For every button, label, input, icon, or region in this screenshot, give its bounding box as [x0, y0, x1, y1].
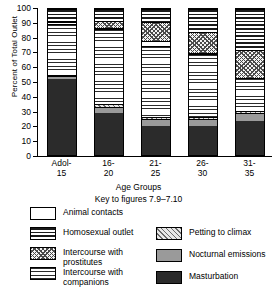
- y-tick-label: 10: [9, 137, 31, 145]
- bar-26-30[interactable]: [188, 8, 218, 156]
- y-tick-mark: [33, 126, 37, 127]
- x-tick-label-line1: 26-: [179, 158, 227, 168]
- bar-segment-prost[interactable]: [236, 50, 264, 78]
- y-tick-label: 60: [9, 63, 31, 71]
- x-tick-label-line2: 35: [226, 168, 274, 178]
- bar-segment-prost[interactable]: [189, 32, 217, 52]
- bar-segment-mast[interactable]: [48, 79, 76, 155]
- legend-swatch-icon: [30, 207, 56, 220]
- y-tick-label: 40: [9, 93, 31, 101]
- x-tick-label-line2: 25: [132, 168, 180, 178]
- bar-segment-homo[interactable]: [189, 9, 217, 32]
- bar-segment-mast[interactable]: [95, 113, 123, 155]
- bar-31-35[interactable]: [235, 8, 265, 156]
- x-tick-label-line1: 16-: [85, 158, 133, 168]
- y-tick-label: 80: [9, 34, 31, 42]
- x-tick-label: 16-20: [85, 158, 133, 178]
- legend-item[interactable]: Petting to climax: [156, 227, 251, 240]
- y-tick-label: 0: [9, 152, 31, 160]
- legend-swatch-icon: [156, 227, 182, 240]
- x-tick-label-line1: 21-: [132, 158, 180, 168]
- legend-swatch-icon: [30, 227, 56, 240]
- key-caption: Key to figures 7.9–7.10: [0, 194, 277, 204]
- y-tick-mark: [33, 156, 37, 157]
- x-tick-label-line2: 30: [179, 168, 227, 178]
- y-tick-label: 90: [9, 19, 31, 27]
- bar-segment-comp[interactable]: [142, 46, 170, 118]
- x-tick-label: 26-30: [179, 158, 227, 178]
- y-tick-mark: [33, 112, 37, 113]
- y-tick-label: 70: [9, 48, 31, 56]
- y-tick-mark: [33, 38, 37, 39]
- bar-segment-noct[interactable]: [142, 119, 170, 126]
- bar-segment-mast[interactable]: [236, 121, 264, 155]
- legend-swatch-icon: [156, 249, 182, 262]
- legend-label: Animal contacts: [63, 207, 123, 218]
- bar-segment-homo[interactable]: [142, 9, 170, 22]
- legend-label: Nocturnal emissions: [189, 249, 266, 260]
- bar-21-25[interactable]: [141, 8, 171, 156]
- legend-label: Homosexual outlet: [63, 227, 133, 238]
- plot-area: Percent of Total Outlet 1009080706050403…: [0, 0, 277, 168]
- x-axis-caption: Age Groups: [0, 182, 277, 192]
- x-axis-line: [37, 156, 272, 157]
- legend-label: Intercourse with companions: [63, 267, 123, 287]
- legend-swatch-icon: [156, 271, 182, 284]
- y-tick-label: 50: [9, 78, 31, 86]
- x-tick-label: 21-25: [132, 158, 180, 178]
- legend-swatch-icon: [30, 267, 56, 280]
- bar-segment-prost[interactable]: [95, 21, 123, 28]
- x-tick-label-line1: Adol-: [38, 158, 86, 168]
- bar-segment-mast[interactable]: [189, 126, 217, 155]
- bar-16-20[interactable]: [94, 8, 124, 156]
- y-tick-mark: [33, 97, 37, 98]
- legend-label: Masturbation: [189, 271, 238, 282]
- bar-segment-noct[interactable]: [189, 119, 217, 126]
- y-tick-mark: [33, 23, 37, 24]
- bar-group: [38, 8, 273, 156]
- y-tick-mark: [33, 67, 37, 68]
- legend-item[interactable]: Animal contacts: [30, 207, 123, 220]
- legend-item[interactable]: Masturbation: [156, 271, 238, 284]
- bar-segment-homo[interactable]: [95, 9, 123, 21]
- x-tick-label: 31-35: [226, 158, 274, 178]
- x-tick-label-line2: 15: [38, 168, 86, 178]
- chart-figure: Percent of Total Outlet 1009080706050403…: [0, 0, 277, 293]
- y-tick-mark: [33, 52, 37, 53]
- bar-segment-comp[interactable]: [236, 78, 264, 112]
- y-tick-label: 30: [9, 108, 31, 116]
- bar-segment-mast[interactable]: [142, 126, 170, 155]
- x-tick-label-line1: 31-: [226, 158, 274, 168]
- y-tick-label: 100: [9, 4, 31, 12]
- legend: Animal contactsHomosexual outletIntercou…: [0, 207, 277, 293]
- bar-segment-homo[interactable]: [236, 9, 264, 50]
- legend-item[interactable]: Nocturnal emissions: [156, 249, 266, 262]
- legend-swatch-icon: [30, 247, 56, 260]
- legend-item[interactable]: Intercourse with prostitutes: [30, 247, 123, 267]
- bar-segment-homo[interactable]: [48, 9, 76, 21]
- bar-Adol-15[interactable]: [47, 8, 77, 156]
- x-tick-label: Adol-15: [38, 158, 86, 178]
- y-tick-mark: [33, 8, 37, 9]
- x-tick-label-line2: 20: [85, 168, 133, 178]
- y-tick-label: 20: [9, 122, 31, 130]
- legend-label: Petting to climax: [189, 227, 251, 238]
- y-tick-mark: [33, 141, 37, 142]
- bar-segment-comp[interactable]: [189, 54, 217, 117]
- bar-segment-noct[interactable]: [236, 113, 264, 122]
- legend-item[interactable]: Homosexual outlet: [30, 227, 133, 240]
- bar-segment-prost[interactable]: [142, 22, 170, 41]
- y-tick-mark: [33, 82, 37, 83]
- x-axis-tick-labels: Adol-1516-2021-2526-3031-35: [38, 158, 273, 182]
- legend-label: Intercourse with prostitutes: [63, 247, 123, 267]
- bar-segment-comp[interactable]: [95, 29, 123, 103]
- legend-item[interactable]: Intercourse with companions: [30, 267, 123, 287]
- y-axis-tick-labels: 1009080706050403020100: [9, 0, 31, 160]
- bar-segment-comp[interactable]: [48, 24, 76, 75]
